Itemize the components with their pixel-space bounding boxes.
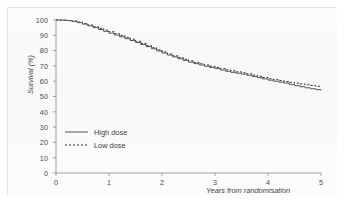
series-line-high-dose (56, 20, 321, 90)
y-tick-label: 10 (26, 154, 48, 163)
survival-curve-figure: 0102030405060708090100 012345 Survival (… (0, 0, 345, 209)
legend-label-low-dose: Low dose (94, 141, 126, 150)
figure-panel: 0102030405060708090100 012345 Survival (… (7, 7, 336, 195)
x-axis-title: Years from randomisation (206, 186, 290, 195)
y-tick-label: 40 (26, 108, 48, 117)
x-tick-marks (56, 173, 321, 176)
x-tick-label: 0 (49, 178, 63, 187)
plot-area: 0102030405060708090100 012345 Survival (… (8, 8, 337, 196)
y-tick-label: 90 (26, 31, 48, 40)
y-axis-title: Survival (%) (26, 45, 35, 105)
y-tick-label: 30 (26, 123, 48, 132)
legend-label-high-dose: High dose (94, 128, 127, 137)
y-tick-label: 100 (26, 16, 48, 25)
y-tick-marks (53, 20, 56, 173)
x-tick-label: 5 (314, 178, 328, 187)
y-tick-label: 0 (26, 169, 48, 178)
series-line-low-dose (56, 20, 321, 87)
x-tick-label: 2 (155, 178, 169, 187)
x-tick-label: 1 (102, 178, 116, 187)
chart-canvas (8, 8, 337, 196)
y-tick-label: 20 (26, 138, 48, 147)
